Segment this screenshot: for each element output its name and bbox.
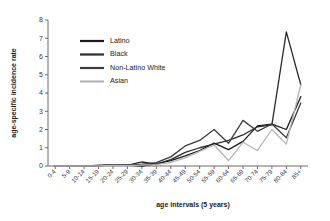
x-axis-title: age intervals (5 years) [156, 201, 230, 209]
x-tick-label: 0-4 [46, 167, 58, 179]
y-axis: 012345678 [39, 16, 48, 169]
series-lines [55, 32, 301, 166]
x-tick-label: 10-14 [70, 167, 87, 184]
y-tick-label: 1 [39, 144, 43, 151]
legend-label: Non-Latino White [110, 63, 166, 72]
x-tick-label: 45-49 [171, 167, 188, 184]
x-tick-label: 25-29 [113, 167, 130, 184]
y-axis-title: age-specific incidence rate [10, 48, 18, 138]
y-tick-label: 7 [39, 35, 43, 42]
y-tick-label: 0 [39, 162, 43, 169]
y-tick-label: 6 [39, 53, 43, 60]
x-tick-label: 65-69 [229, 167, 246, 184]
line-chart: 012345678 0-45-910-1415-1920-2425-2930-3… [0, 0, 330, 221]
y-tick-label: 3 [39, 108, 43, 115]
legend-label: Black [110, 49, 128, 58]
x-tick-label: 60-64 [214, 167, 231, 184]
x-tick-label: 85+ [290, 167, 303, 180]
x-tick-label: 55-59 [200, 167, 217, 184]
x-tick-label: 75-79 [257, 167, 274, 184]
x-tick-label: 30-34 [127, 167, 144, 184]
x-tick-label: 80-84 [272, 167, 289, 184]
legend-label: Asian [110, 76, 128, 85]
y-tick-label: 2 [39, 126, 43, 133]
x-tick-label: 50-54 [185, 167, 202, 184]
y-tick-label: 8 [39, 16, 43, 23]
chart-legend: LatinoBlackNon-Latino WhiteAsian [80, 36, 166, 86]
chart-container: 012345678 0-45-910-1415-1920-2425-2930-3… [0, 0, 330, 221]
x-tick-label: 20-24 [99, 167, 116, 184]
x-axis: 0-45-910-1415-1920-2425-2930-3435-3940-4… [46, 166, 308, 184]
series-line-black [55, 32, 301, 166]
x-tick-label: 15-19 [84, 167, 101, 184]
x-tick-label: 70-74 [243, 167, 260, 184]
y-tick-label: 5 [39, 71, 43, 78]
x-tick-label: 40-44 [156, 167, 173, 184]
y-tick-label: 4 [39, 89, 43, 96]
x-tick-label: 35-39 [142, 167, 159, 184]
legend-label: Latino [110, 36, 130, 45]
